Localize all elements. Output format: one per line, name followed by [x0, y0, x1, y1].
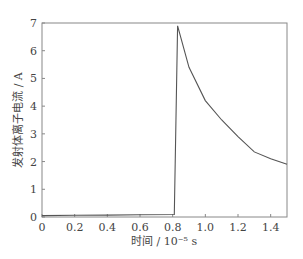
y-tick-label: 1: [30, 183, 37, 196]
y-tick-label: 2: [30, 156, 37, 169]
x-tick-label: 1.4: [262, 221, 280, 234]
x-tick-label: 0.6: [131, 221, 149, 234]
y-tick-label: 5: [30, 72, 37, 85]
y-tick-label: 0: [30, 211, 37, 224]
line-chart: 01234567 00.20.40.60.81.01.21.4 时间 / 10⁻…: [0, 0, 303, 259]
plot-frame: [42, 23, 287, 217]
x-tick-label: 0: [39, 221, 46, 234]
x-tick-label: 0.8: [164, 221, 182, 234]
y-tick-label: 7: [30, 17, 37, 30]
x-tick-label: 0.4: [99, 221, 117, 234]
x-axis-title: 时间 / 10⁻⁵ s: [131, 235, 197, 248]
x-tick-label: 1.2: [229, 221, 247, 234]
x-tick-label: 0.2: [66, 221, 84, 234]
y-tick-label: 6: [30, 45, 37, 58]
y-axis: 01234567: [30, 17, 45, 224]
y-tick-label: 3: [30, 128, 37, 141]
x-tick-label: 1.0: [197, 221, 215, 234]
y-axis-title: 发射体离子电流 / A: [11, 71, 25, 168]
current-curve: [42, 26, 287, 216]
y-tick-label: 4: [30, 100, 37, 113]
